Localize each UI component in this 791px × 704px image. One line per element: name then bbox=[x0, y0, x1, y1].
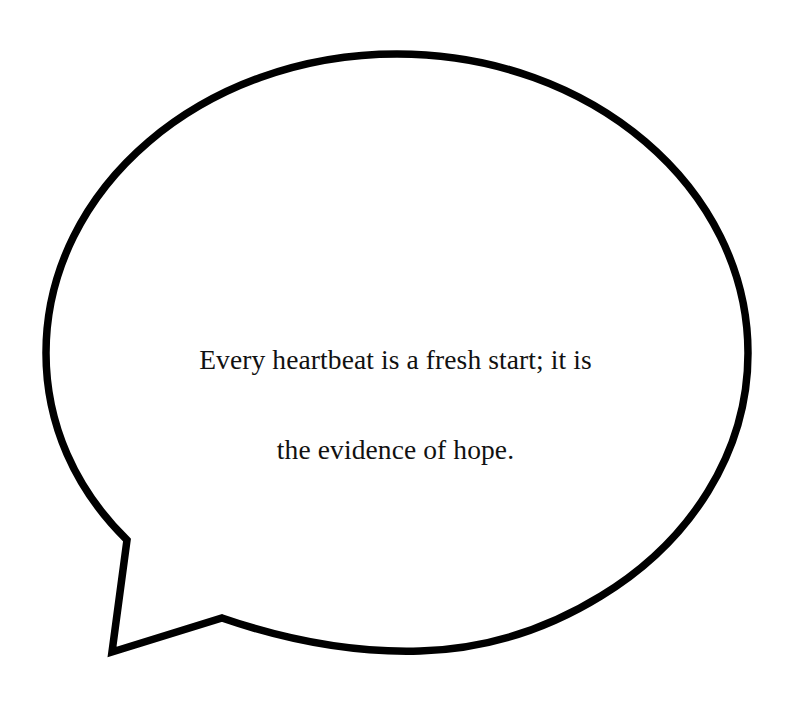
speech-bubble-canvas: Every heartbeat is a fresh start; it is … bbox=[0, 0, 791, 704]
quote-text-block: Every heartbeat is a fresh start; it is … bbox=[0, 292, 791, 517]
quote-line-1: Every heartbeat is a fresh start; it is bbox=[0, 337, 791, 382]
quote-line-2: the evidence of hope. bbox=[0, 427, 791, 472]
